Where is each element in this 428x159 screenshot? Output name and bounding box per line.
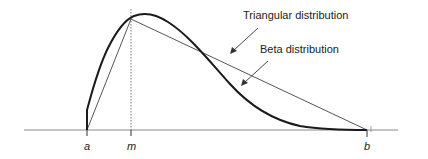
label-a: a bbox=[84, 140, 90, 152]
triangular-arrow bbox=[230, 28, 258, 54]
beta-distribution-curve bbox=[87, 14, 367, 130]
triangular-distribution-line bbox=[87, 19, 367, 130]
triangular-label: Triangular distribution bbox=[243, 9, 348, 21]
label-m: m bbox=[127, 140, 136, 152]
beta-label: Beta distribution bbox=[260, 43, 339, 55]
beta-arrow bbox=[241, 61, 268, 86]
label-b: b bbox=[364, 140, 370, 152]
distribution-diagram: Triangular distribution Beta distributio… bbox=[0, 0, 428, 159]
